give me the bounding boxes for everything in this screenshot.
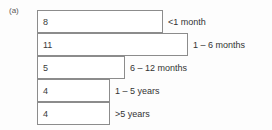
bar: 4 bbox=[37, 79, 110, 102]
bar-value-label: 4 bbox=[43, 109, 48, 119]
bar: 11 bbox=[37, 33, 188, 56]
bar-category-label: >5 years bbox=[115, 109, 150, 119]
bar: 8 bbox=[37, 10, 163, 33]
panel-label: (a) bbox=[9, 6, 19, 16]
bar-value-label: 5 bbox=[43, 63, 48, 73]
bar-category-label: 6 – 12 months bbox=[130, 63, 187, 73]
figure-panel: (a) 8 <1 month 11 1 – 6 months 5 6 – 12 … bbox=[0, 0, 272, 130]
bar-category-label: 1 – 6 months bbox=[193, 40, 245, 50]
bar-category-label: <1 month bbox=[168, 17, 206, 27]
bar: 5 bbox=[37, 56, 125, 79]
bar-value-label: 8 bbox=[43, 17, 48, 27]
bar: 4 bbox=[37, 102, 110, 125]
bar-value-label: 4 bbox=[43, 86, 48, 96]
bar-category-label: 1 – 5 years bbox=[115, 86, 160, 96]
bar-value-label: 11 bbox=[43, 40, 52, 50]
horizontal-bar-chart: 8 <1 month 11 1 – 6 months 5 6 – 12 mont… bbox=[37, 10, 237, 125]
